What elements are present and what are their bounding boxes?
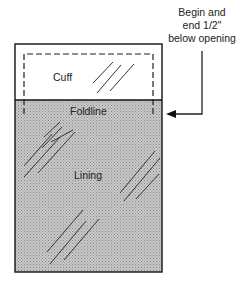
- leader-line: [172, 51, 202, 114]
- lining-label: Lining: [74, 169, 102, 181]
- annotation-line-2: end 1/2": [183, 19, 222, 31]
- cuff-region: [15, 44, 162, 100]
- arrowhead-icon: [166, 110, 176, 118]
- foldline-label: Foldline: [70, 105, 107, 117]
- annotation-line-3: below opening: [168, 32, 236, 44]
- cuff-label: Cuff: [53, 71, 72, 83]
- cuff-lining-diagram: Cuff Foldline Lining Begin and end 1/2" …: [0, 0, 252, 281]
- lining-region: [15, 100, 162, 272]
- annotation-line-1: Begin and: [178, 6, 225, 18]
